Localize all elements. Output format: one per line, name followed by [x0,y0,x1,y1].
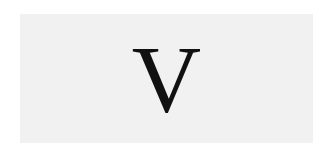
letter-glyph: V [0,0,333,157]
